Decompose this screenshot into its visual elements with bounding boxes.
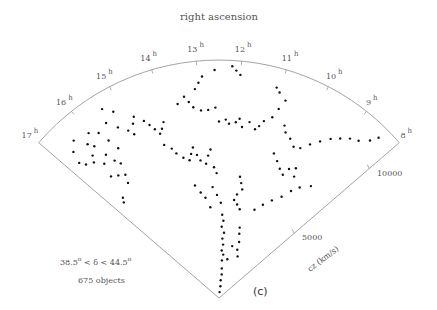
galaxy-point: [218, 120, 220, 122]
galaxy-point: [377, 137, 379, 139]
galaxy-point: [188, 159, 190, 161]
galaxy-point: [262, 204, 264, 206]
galaxy-point: [200, 191, 202, 193]
galaxy-point: [220, 202, 222, 204]
galaxy-point: [239, 208, 241, 210]
galaxy-point: [221, 267, 223, 269]
galaxy-point: [97, 132, 99, 134]
galaxy-point: [238, 241, 240, 243]
ra-label-14h: 14h: [140, 50, 157, 63]
galaxy-point: [192, 106, 194, 108]
ra-label-12h: 12h: [235, 41, 252, 54]
ra-tick-labels: 17h16h15h14h13h12h11h10h9h8h: [22, 41, 413, 140]
galaxy-point: [182, 157, 184, 159]
galaxy-point: [278, 108, 280, 110]
galaxy-point: [209, 206, 211, 208]
galaxy-point: [278, 91, 280, 93]
galaxy-point: [188, 101, 190, 103]
galaxy-point: [309, 143, 311, 145]
galaxy-point: [123, 201, 125, 203]
galaxy-point: [200, 109, 202, 111]
galaxy-point: [78, 162, 80, 164]
galaxy-point: [127, 182, 129, 184]
galaxy-point: [310, 185, 312, 187]
galaxy-point: [221, 259, 223, 261]
galaxy-point: [91, 154, 93, 156]
galaxy-point: [253, 209, 255, 211]
galaxy-point: [132, 123, 134, 125]
galaxy-point: [209, 148, 211, 150]
galaxy-point: [112, 111, 114, 113]
galaxy-point: [221, 249, 223, 251]
galaxy-point: [223, 232, 225, 234]
galaxy-point: [258, 125, 260, 127]
galaxy-point: [93, 145, 95, 147]
galaxy-point: [207, 154, 209, 156]
galaxy-point: [197, 82, 199, 84]
galaxy-point: [240, 182, 242, 184]
galaxy-point: [284, 131, 286, 133]
galaxy-point: [231, 65, 233, 67]
galaxy-point: [101, 108, 103, 110]
galaxy-point: [72, 151, 74, 153]
galaxy-point: [221, 226, 223, 228]
galaxy-point: [239, 176, 241, 178]
galaxy-point: [93, 161, 95, 163]
ra-label-16h: 16h: [56, 94, 73, 107]
galaxy-point: [122, 197, 124, 199]
galaxy-point: [289, 138, 291, 140]
galaxy-point: [233, 199, 235, 201]
galaxy-point: [226, 258, 228, 260]
galaxy-point: [271, 199, 273, 201]
galaxy-point: [162, 121, 164, 123]
galaxy-point: [205, 163, 207, 165]
ra-tick: [152, 70, 153, 74]
ra-tick: [110, 87, 112, 91]
galaxy-point: [254, 128, 256, 130]
galaxy-point: [163, 144, 165, 146]
galaxy-point: [214, 106, 216, 108]
galaxy-point: [239, 226, 241, 228]
ra-label-13h: 13h: [187, 41, 204, 54]
galaxy-point: [222, 253, 224, 255]
ra-label-10h: 10h: [326, 68, 343, 81]
galaxy-point: [279, 168, 281, 170]
galaxy-point: [86, 143, 88, 145]
galaxy-point: [236, 255, 238, 257]
ra-tick: [71, 111, 73, 114]
galaxy-point: [228, 123, 230, 125]
galaxy-point: [369, 139, 371, 141]
ra-tick: [285, 70, 286, 74]
galaxy-point: [117, 126, 119, 128]
galaxy-point: [113, 159, 115, 161]
galaxy-point: [215, 172, 217, 174]
galaxy-point: [159, 133, 161, 135]
galaxy-point: [124, 174, 126, 176]
galaxy-point: [235, 69, 237, 71]
declination-range: 38.5o < δ < 44.5o: [60, 255, 132, 267]
cz-tick-5000: 5000: [302, 233, 322, 242]
galaxy-point: [319, 140, 321, 142]
galaxy-point: [288, 168, 290, 170]
galaxy-point: [282, 174, 284, 176]
galaxy-point: [194, 184, 196, 186]
galaxy-point: [231, 245, 233, 247]
galaxy-point: [105, 154, 107, 156]
redshift-wedge-diagram: right ascension 17h16h15h14h13h12h11h10h…: [0, 0, 437, 310]
galaxy-point: [263, 120, 265, 122]
galaxy-point: [183, 96, 185, 98]
galaxy-point: [236, 203, 238, 205]
galaxy-point: [73, 139, 75, 141]
galaxy-point: [222, 243, 224, 245]
galaxy-point: [194, 88, 196, 90]
galaxy-point: [235, 121, 237, 123]
ra-label-8h: 8h: [400, 127, 412, 140]
galaxy-point: [175, 152, 177, 154]
galaxy-point: [349, 137, 351, 139]
galaxy-point: [273, 152, 275, 154]
galaxy-point: [221, 273, 223, 275]
galaxy-point: [276, 86, 278, 88]
galaxy-point: [295, 167, 297, 169]
galaxy-point: [213, 166, 215, 168]
ra-label-9h: 9h: [366, 94, 378, 107]
